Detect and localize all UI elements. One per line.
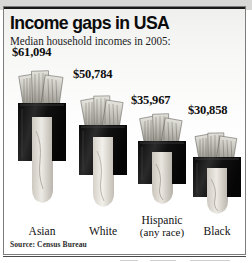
bar-sublabel-hispanic: (any race) bbox=[132, 226, 192, 238]
bar-value-hispanic: $35,967 bbox=[131, 93, 170, 108]
source-credit: Source: Census Bureau bbox=[10, 240, 87, 249]
bar-label-asian: Asian bbox=[12, 225, 72, 237]
bar-label-text-asian: Asian bbox=[29, 225, 56, 237]
wallet-with-cash-icon-white bbox=[73, 93, 133, 221]
chart-plot-area: $61,094 bbox=[4, 45, 246, 241]
wallet-with-cash-icon-hispanic bbox=[132, 112, 192, 212]
bar-label-text-black: Black bbox=[204, 225, 231, 237]
wallet-with-cash-icon-asian bbox=[12, 69, 72, 221]
infographic-figure: Income gaps in USA Median household inco… bbox=[0, 0, 252, 263]
bar-group-white: $50,784 bbox=[73, 45, 133, 241]
bar-label-black: Black bbox=[187, 225, 246, 237]
bar-value-white: $50,784 bbox=[73, 67, 112, 82]
bottom-rule bbox=[3, 256, 246, 257]
print-artifact-2 bbox=[150, 260, 176, 261]
infographic-frame: Income gaps in USA Median household inco… bbox=[3, 6, 246, 255]
bar-label-hispanic: Hispanic (any race) bbox=[132, 214, 192, 238]
bar-group-hispanic: $35,967 bbox=[132, 45, 192, 241]
bar-value-black: $30,858 bbox=[188, 103, 227, 118]
print-artifact-1 bbox=[120, 260, 138, 261]
title-top-rule bbox=[4, 7, 245, 9]
bar-group-black: $30,858 bbox=[187, 45, 246, 241]
bar-label-white: White bbox=[73, 225, 133, 237]
bar-group-asian: $61,094 bbox=[12, 45, 72, 241]
bar-label-text-hispanic: Hispanic bbox=[142, 214, 183, 226]
print-artifact-3 bbox=[190, 260, 230, 261]
wallet-with-cash-icon-black bbox=[187, 131, 246, 221]
bar-value-asian: $61,094 bbox=[12, 45, 51, 60]
bar-label-text-white: White bbox=[89, 225, 117, 237]
page-title: Income gaps in USA bbox=[10, 12, 169, 34]
